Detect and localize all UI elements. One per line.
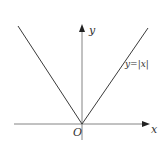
graph-canvas: y x O y=|x|	[0, 0, 164, 148]
x-axis-label: x	[151, 123, 158, 136]
origin-label: O	[73, 126, 82, 139]
function-label: y=|x|	[124, 59, 149, 70]
abs-function-curve	[18, 26, 148, 124]
y-axis-label: y	[88, 24, 96, 37]
y-axis-arrow-icon	[79, 24, 85, 32]
x-axis-arrow-icon	[142, 121, 150, 127]
